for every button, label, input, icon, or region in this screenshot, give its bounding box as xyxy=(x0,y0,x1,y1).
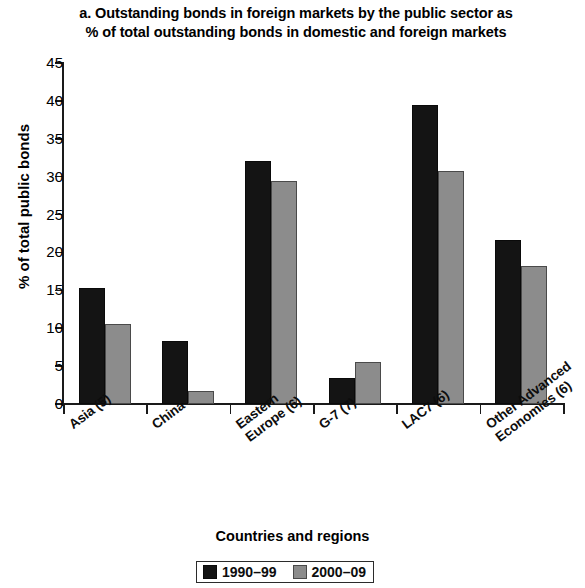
bar xyxy=(438,171,464,404)
bar xyxy=(162,341,188,404)
y-tick-label: 15 xyxy=(27,282,63,297)
chart-legend: 1990–992000–09 xyxy=(196,561,374,583)
bar-group xyxy=(480,63,563,404)
bar-group xyxy=(146,63,229,404)
chart-title-line-2: % of total outstanding bonds in domestic… xyxy=(26,23,566,42)
legend-swatch xyxy=(203,565,217,579)
x-tick-mark xyxy=(563,405,565,414)
bar xyxy=(245,161,271,404)
bar-group xyxy=(63,63,146,404)
legend-item[interactable]: 2000–09 xyxy=(293,564,367,580)
x-tick-mark xyxy=(146,405,148,414)
y-tick-label: 45 xyxy=(27,55,63,70)
y-tick-label: 5 xyxy=(27,358,63,373)
y-tick-label: 20 xyxy=(27,244,63,259)
y-tick-label: 30 xyxy=(27,169,63,184)
bar-chart-figure: a. Outstanding bonds in foreign markets … xyxy=(0,0,585,588)
chart-title: a. Outstanding bonds in foreign markets … xyxy=(26,4,566,42)
x-tick-mark xyxy=(396,405,398,414)
y-tick-label: 0 xyxy=(27,396,63,411)
x-tick-mark xyxy=(480,405,482,414)
bar-group xyxy=(396,63,479,404)
bar xyxy=(495,240,521,404)
bar xyxy=(188,391,214,404)
y-tick-label: 35 xyxy=(27,131,63,146)
legend-swatch xyxy=(293,565,307,579)
bar xyxy=(412,105,438,404)
x-tick-mark xyxy=(63,405,65,414)
y-tick-label: 40 xyxy=(27,93,63,108)
bar xyxy=(355,362,381,404)
x-axis-title: Countries and regions xyxy=(0,528,585,544)
bar-group xyxy=(230,63,313,404)
x-tick-mark xyxy=(230,405,232,414)
bar-group xyxy=(313,63,396,404)
x-tick-mark xyxy=(313,405,315,414)
chart-title-line-1: a. Outstanding bonds in foreign markets … xyxy=(26,4,566,23)
plot-area xyxy=(63,63,563,404)
legend-label: 1990–99 xyxy=(222,564,277,580)
bar xyxy=(271,181,297,404)
bar xyxy=(79,288,105,404)
bar xyxy=(105,324,131,404)
y-tick-label: 10 xyxy=(27,320,63,335)
legend-label: 2000–09 xyxy=(312,564,367,580)
y-tick-label: 25 xyxy=(27,207,63,222)
legend-item[interactable]: 1990–99 xyxy=(203,564,277,580)
